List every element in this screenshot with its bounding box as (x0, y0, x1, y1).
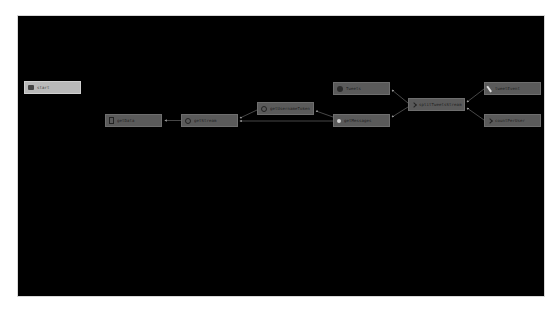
node-label: countPerUser (495, 118, 525, 123)
node-start[interactable]: start (24, 81, 81, 94)
gear-icon (261, 106, 267, 112)
node-label: getData (117, 118, 135, 123)
node-getdata[interactable]: getData (105, 114, 162, 127)
node-tweets[interactable]: Tweets (333, 82, 390, 95)
node-label: Tweets (346, 86, 361, 91)
node-label: tweetEvent (495, 86, 520, 91)
dot-icon (337, 119, 341, 123)
node-label: getStream (194, 118, 217, 123)
node-splittweetsstream[interactable]: splitTweetsStream (408, 98, 465, 111)
node-label: getUsernameToken (270, 106, 310, 111)
node-getstream[interactable]: getStream (181, 114, 238, 127)
node-countperuser[interactable]: countPerUser (484, 114, 541, 127)
node-tweetevent[interactable]: tweetEvent (484, 82, 541, 95)
node-getusernametoken[interactable]: getUsernameToken (257, 102, 314, 115)
globe-icon (337, 86, 343, 92)
arrow-icon (411, 102, 417, 108)
node-getmessages[interactable]: getMessages (333, 114, 390, 127)
node-label: getMessages (344, 118, 372, 123)
start-icon (28, 85, 34, 90)
node-label: start (37, 85, 50, 90)
graph-canvas[interactable] (17, 15, 545, 297)
pen-icon (486, 84, 493, 92)
node-label: splitTweetsStream (419, 102, 462, 107)
gear-icon (185, 118, 191, 124)
arrow-icon (487, 118, 493, 124)
document-icon (109, 117, 114, 124)
